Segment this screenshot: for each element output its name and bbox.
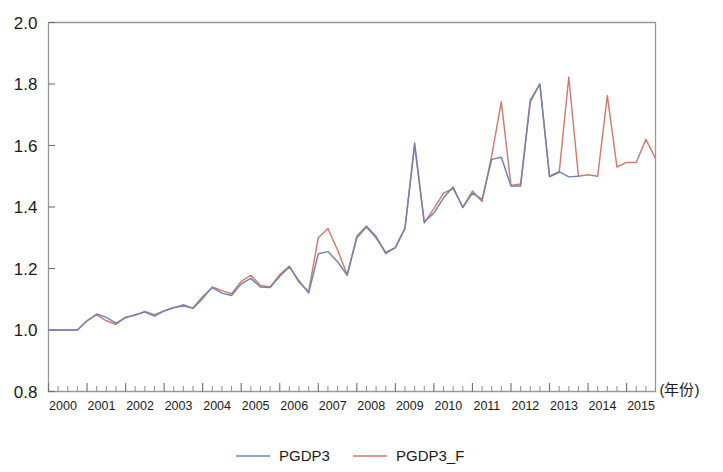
y-tick-label: 0.8 bbox=[14, 383, 38, 402]
y-tick-label: 1.4 bbox=[14, 198, 38, 217]
x-tick-label: 2014 bbox=[589, 399, 617, 413]
series-line-pgdp3-f bbox=[49, 77, 656, 330]
x-tick-label: 2002 bbox=[126, 399, 154, 413]
y-tick-label: 2.0 bbox=[14, 14, 38, 33]
x-tick-label: 2011 bbox=[473, 399, 500, 413]
x-tick-label: 2013 bbox=[550, 399, 578, 413]
x-tick-label: 2001 bbox=[88, 399, 116, 413]
series-line-pgdp3 bbox=[49, 84, 579, 330]
x-tick-label: 2000 bbox=[49, 399, 77, 413]
x-axis-ticks bbox=[49, 383, 656, 392]
y-tick-label: 1.0 bbox=[14, 321, 38, 340]
y-tick-label: 1.6 bbox=[14, 137, 38, 156]
y-axis-tick-labels: 0.81.01.21.41.61.82.0 bbox=[14, 14, 38, 402]
chart-figure: 0.81.01.21.41.61.82.0 200020012002200320… bbox=[0, 0, 723, 472]
y-tick-label: 1.8 bbox=[14, 75, 38, 94]
x-axis-tick-labels: 2000200120022003200420052006200720082009… bbox=[49, 399, 655, 413]
plot-frame bbox=[49, 23, 656, 392]
x-tick-label: 2003 bbox=[165, 399, 193, 413]
x-tick-label: 2006 bbox=[280, 399, 308, 413]
x-tick-label: 2012 bbox=[512, 399, 540, 413]
x-tick-label: 2005 bbox=[242, 399, 270, 413]
x-tick-label: 2004 bbox=[203, 399, 231, 413]
x-tick-label: 2015 bbox=[627, 399, 655, 413]
chart-legend: PGDP3PGDP3_F bbox=[236, 447, 464, 464]
y-axis-ticks bbox=[49, 23, 56, 392]
legend-label-pgdp3: PGDP3 bbox=[279, 447, 330, 464]
line-chart-canvas: 0.81.01.21.41.61.82.0 200020012002200320… bbox=[0, 0, 723, 472]
x-axis-caption: (年份) bbox=[660, 381, 700, 398]
x-tick-label: 2007 bbox=[319, 399, 347, 413]
x-tick-label: 2010 bbox=[434, 399, 462, 413]
data-series-group bbox=[49, 77, 656, 330]
x-tick-label: 2009 bbox=[396, 399, 424, 413]
x-tick-label: 2008 bbox=[357, 399, 385, 413]
y-tick-label: 1.2 bbox=[14, 260, 38, 279]
legend-label-pgdp3-f: PGDP3_F bbox=[396, 447, 464, 464]
